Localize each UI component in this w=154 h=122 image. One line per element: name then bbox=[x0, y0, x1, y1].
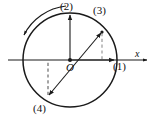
label-position-1: (1) bbox=[113, 61, 126, 72]
label-origin: O bbox=[66, 62, 74, 73]
figure-canvas bbox=[0, 0, 154, 122]
label-position-2: (2) bbox=[60, 1, 73, 12]
label-position-3: (3) bbox=[93, 5, 106, 16]
diameter-vector-3-4 bbox=[49, 33, 101, 95]
label-position-4: (4) bbox=[33, 103, 46, 114]
circular-motion-figure: (2) (3) (1) (4) O x bbox=[0, 0, 154, 122]
label-x-axis: x bbox=[135, 49, 139, 59]
point-dot-3 bbox=[100, 30, 103, 33]
